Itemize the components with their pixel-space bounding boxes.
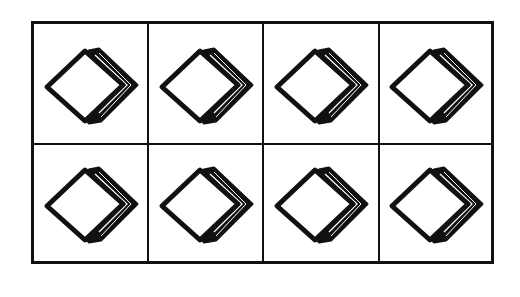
book-icon	[41, 160, 141, 246]
book-icon	[271, 160, 371, 246]
book-grid	[31, 21, 494, 264]
grid-cell-1	[34, 24, 149, 145]
book-icon	[156, 160, 256, 246]
book-icon	[271, 41, 371, 127]
grid-cell-6	[149, 145, 264, 261]
grid-cell-3	[264, 24, 380, 145]
book-icon	[156, 41, 256, 127]
grid-cell-5	[34, 145, 149, 261]
book-icon	[386, 41, 486, 127]
grid-cell-8	[380, 145, 491, 261]
grid-cell-7	[264, 145, 380, 261]
grid-cell-2	[149, 24, 264, 145]
book-icon	[386, 160, 486, 246]
grid-cell-4	[380, 24, 491, 145]
book-icon	[41, 41, 141, 127]
